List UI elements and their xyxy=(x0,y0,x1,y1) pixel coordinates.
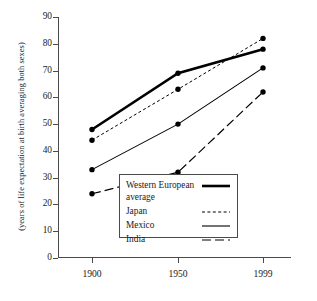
data-point xyxy=(89,127,94,132)
legend-item-japan: Japan xyxy=(126,205,231,219)
y-tick-label: 0 xyxy=(26,253,52,262)
data-point xyxy=(260,46,265,51)
series-line-mexico xyxy=(92,68,263,170)
data-point xyxy=(175,121,180,126)
x-tick-label: 1900 xyxy=(67,268,117,279)
data-point xyxy=(260,65,265,70)
x-tick xyxy=(178,258,179,263)
data-point xyxy=(175,87,180,92)
legend-item-mexico: Mexico xyxy=(126,219,231,233)
legend-item-india: India xyxy=(126,233,231,247)
y-tick-label: 20 xyxy=(26,199,52,208)
legend-label-continued: average xyxy=(126,193,231,205)
legend-swatch-long-dashed xyxy=(201,235,231,245)
y-tick-label: 50 xyxy=(26,119,52,128)
y-tick-label: 60 xyxy=(26,92,52,101)
legend-label: Japan xyxy=(126,207,147,217)
data-point xyxy=(89,137,94,142)
data-point xyxy=(260,36,265,41)
data-point xyxy=(89,167,94,172)
x-tick-label: 1950 xyxy=(153,268,203,279)
legend-label: Mexico xyxy=(126,221,154,231)
legend: Western European average Japan Mexico In… xyxy=(119,174,238,238)
legend-swatch-fine-dotted xyxy=(201,207,231,217)
x-tick-label: 1999 xyxy=(238,268,288,279)
data-point xyxy=(175,71,180,76)
legend-label: India xyxy=(126,235,145,245)
y-tick-label: 80 xyxy=(26,39,52,48)
x-tick xyxy=(92,258,93,263)
y-tick-label: 30 xyxy=(26,173,52,182)
y-tick-label: 70 xyxy=(26,66,52,75)
y-tick-label: 10 xyxy=(26,226,52,235)
x-tick xyxy=(263,258,264,263)
legend-item-western-european-average: Western European xyxy=(126,179,231,193)
data-point xyxy=(260,89,265,94)
data-point xyxy=(89,191,94,196)
legend-swatch-thin-solid xyxy=(201,221,231,231)
y-tick-label: 90 xyxy=(26,12,52,21)
line-chart: (years of life expectation at birth aver… xyxy=(0,0,317,301)
legend-label: Western European xyxy=(126,181,194,191)
legend-swatch-thick-solid xyxy=(201,181,231,191)
y-tick-label: 40 xyxy=(26,146,52,155)
y-tick xyxy=(53,258,58,259)
y-axis-label: (years of life expectation at birth aver… xyxy=(17,12,26,262)
